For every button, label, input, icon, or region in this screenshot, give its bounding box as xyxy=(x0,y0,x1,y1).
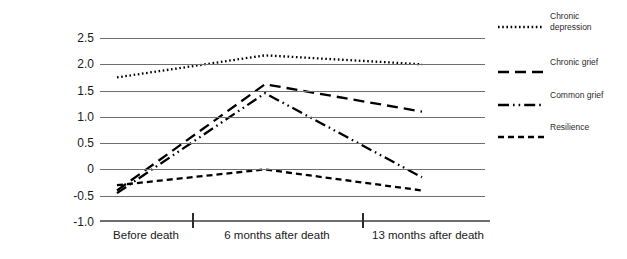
legend-item: Chronicdepression xyxy=(498,10,627,40)
y-axis-title: Depression Scale Score xyxy=(2,0,24,22)
y-axis-tick-label: -1.0 xyxy=(50,216,94,228)
chart-legend: ChronicdepressionChronic griefCommon gri… xyxy=(498,10,627,138)
series-lines xyxy=(100,38,485,222)
legend-label: Chronic grief xyxy=(550,57,627,68)
y-axis-tick-label: -0.5 xyxy=(50,190,94,202)
legend-label: Resilience xyxy=(550,122,627,133)
legend-item: Chronic grief xyxy=(498,55,627,85)
legend-label: Common grief xyxy=(550,90,627,101)
legend-line-sample xyxy=(498,18,544,28)
gridline xyxy=(100,143,485,144)
legend-label-line: Chronic xyxy=(550,11,627,22)
plot-area xyxy=(100,38,485,222)
y-axis-tick-label: 1.0 xyxy=(50,111,94,123)
y-axis-tick-label: 2.0 xyxy=(50,58,94,70)
series-line-3 xyxy=(117,169,422,190)
gridline xyxy=(100,117,485,118)
y-axis-tick-label: 0 xyxy=(50,163,94,175)
legend-item: Common grief xyxy=(498,88,627,118)
legend-label-line: depression xyxy=(550,22,627,33)
gridline xyxy=(100,196,485,197)
gridline xyxy=(100,64,485,65)
x-axis-tick-label: Before death xyxy=(76,228,216,242)
y-axis-tick-label: 1.5 xyxy=(50,85,94,97)
x-axis-tick-mark xyxy=(362,213,364,228)
x-axis-tick-label: 6 months after death xyxy=(207,228,347,242)
legend-line-sample xyxy=(498,128,544,138)
series-line-0 xyxy=(117,55,422,77)
y-axis-title-text: Depression Scale Score xyxy=(2,0,24,22)
x-axis-tick-label: 13 months after death xyxy=(358,228,498,242)
chart-screenshot: Depression Scale Score 2.52.01.51.00.50-… xyxy=(0,0,627,259)
gridline xyxy=(100,38,485,39)
legend-line-sample xyxy=(498,96,544,106)
legend-item: Resilience xyxy=(498,120,627,150)
series-line-1 xyxy=(117,84,422,190)
gridline xyxy=(100,91,485,92)
x-axis-tick-mark xyxy=(192,213,194,228)
y-axis-tick-label: 2.5 xyxy=(50,32,94,44)
y-axis-tick-labels: 2.52.01.51.00.50-0.5-1.0 xyxy=(28,0,94,259)
x-axis-line xyxy=(100,220,490,222)
legend-label: Chronicdepression xyxy=(550,11,627,33)
y-axis-tick-label: 0.5 xyxy=(50,137,94,149)
legend-line-sample xyxy=(498,63,544,73)
gridline xyxy=(100,169,485,170)
